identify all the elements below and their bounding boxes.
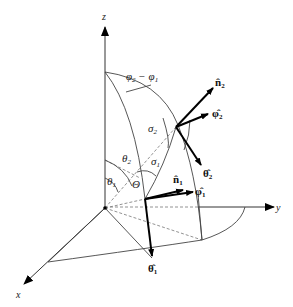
- sphere-arcs: [48, 72, 245, 262]
- y-axis-label: y: [275, 202, 281, 213]
- origin-point: [103, 206, 107, 210]
- theta1-vector: [145, 199, 152, 256]
- phi1-vector-label: φ̂1: [195, 185, 206, 199]
- vectors-p1: [145, 190, 193, 256]
- theta1-vector-label: θ̂1: [148, 262, 158, 276]
- Theta-label: Θ: [132, 178, 140, 190]
- theta2-vector-label: θ̂2: [203, 167, 213, 181]
- sigma2-label: σ2: [148, 122, 157, 136]
- x-axis-label: x: [15, 289, 21, 300]
- theta1-label: θ1: [107, 175, 116, 189]
- spherical-diagram: z y x φ2 − φ1 σ2 σ1 θ2 θ1 Θ n̂2 φ̂2 θ̂2 …: [0, 0, 293, 307]
- n2-vector: [176, 88, 213, 127]
- z-axis-label: z: [101, 11, 106, 22]
- phi2-vector-label: φ̂2: [212, 107, 223, 121]
- sigma1-label: σ1: [151, 155, 160, 169]
- n1-label: n̂1: [173, 173, 183, 187]
- theta2-label: θ2: [122, 152, 131, 166]
- vectors-p2: [176, 88, 213, 165]
- n2-label: n̂2: [215, 76, 225, 90]
- axes: [24, 27, 274, 284]
- phi-diff-label: φ2 − φ1: [126, 70, 158, 84]
